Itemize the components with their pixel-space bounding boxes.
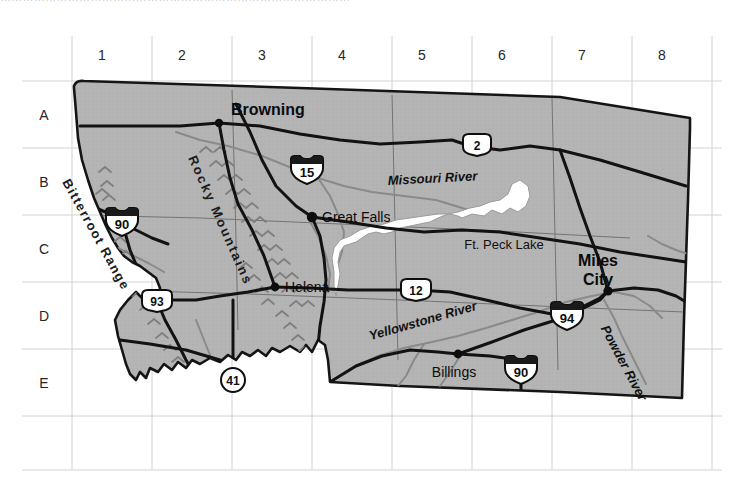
route-shield-us2[interactable]: 2 <box>463 134 491 156</box>
grid-row-label: C <box>39 241 49 257</box>
city-label-browning: Browning <box>231 101 305 118</box>
grid-column-label: 5 <box>418 47 426 63</box>
route-shield-number: 15 <box>300 165 314 180</box>
city-dot-great-falls <box>307 212 317 222</box>
city-label-billings: Billings <box>432 364 476 380</box>
route-shield-number: 90 <box>115 217 129 232</box>
grid-column-label: 2 <box>178 47 186 63</box>
city-label-miles-city-line2: City <box>583 271 613 288</box>
water-label-ft-peck-lake: Ft. Peck Lake <box>464 237 543 252</box>
route-shield-us93[interactable]: 93 <box>142 290 172 312</box>
route-shield-number: 41 <box>226 374 240 388</box>
route-shield-number: 94 <box>560 311 575 326</box>
map-page: ………………………………………………………………………………… <box>0 0 742 488</box>
route-shield-us12[interactable]: 12 <box>401 279 431 301</box>
city-dot-helena <box>271 283 280 292</box>
grid-row-labels: A B C D E <box>39 107 49 391</box>
grid-column-label: 3 <box>258 47 266 63</box>
city-dot-billings <box>454 350 463 359</box>
city-label-miles-city-line1: Miles <box>578 252 618 269</box>
grid-row-label: B <box>39 174 48 190</box>
route-shield-number: 12 <box>409 284 423 298</box>
city-dot-browning <box>215 119 223 127</box>
grid-row-label: E <box>39 375 48 391</box>
grid-column-label: 8 <box>658 47 666 63</box>
city-label-great-falls: Great Falls <box>322 209 390 225</box>
route-shield-state41[interactable]: 41 <box>221 368 245 392</box>
grid-column-label: 7 <box>578 47 586 63</box>
city-label-helena: Helena <box>285 279 330 295</box>
grid-row-label: A <box>39 107 49 123</box>
grid-row-label: D <box>39 308 49 324</box>
grid-column-label: 4 <box>338 47 346 63</box>
state-landmass <box>74 81 690 398</box>
route-shield-number: 90 <box>514 365 528 380</box>
route-shield-number: 93 <box>150 295 164 309</box>
grid-column-labels: 1 2 3 4 5 6 7 8 <box>98 47 666 63</box>
montana-map: 1 2 3 4 5 6 7 8 A B C D E Rocky Mountain… <box>0 0 742 488</box>
grid-column-label: 1 <box>98 47 106 63</box>
grid-column-label: 6 <box>498 47 506 63</box>
route-shield-number: 2 <box>474 139 481 153</box>
